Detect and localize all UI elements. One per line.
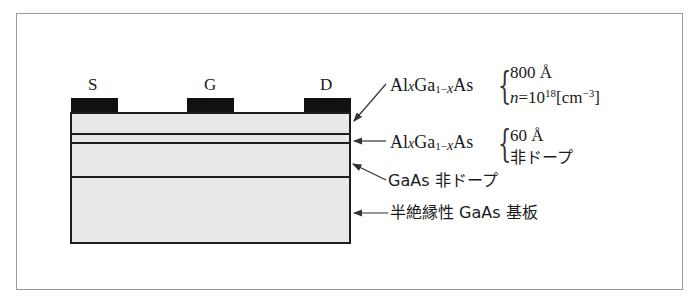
arrow-doped-algaas — [354, 84, 386, 121]
undoped-gaas-label: GaAs 非ドープ — [388, 173, 498, 189]
doped-algaas-thickness: 800 Å — [510, 64, 552, 81]
doped-algaas-doping: n=1018[cm−3] — [510, 88, 600, 106]
substrate-label: 半絶縁性 GaAs 基板 — [390, 205, 538, 221]
leader-arrows — [0, 0, 694, 306]
doped-algaas-label: AlxGa1−xAs — [390, 76, 473, 96]
spacer-algaas-doping: 非ドープ — [510, 150, 573, 166]
spacer-algaas-thickness: 60 Å — [510, 127, 544, 144]
arrow-undoped-gaas — [353, 164, 386, 180]
spacer-algaas-label: AlxGa1−xAs — [390, 133, 473, 153]
